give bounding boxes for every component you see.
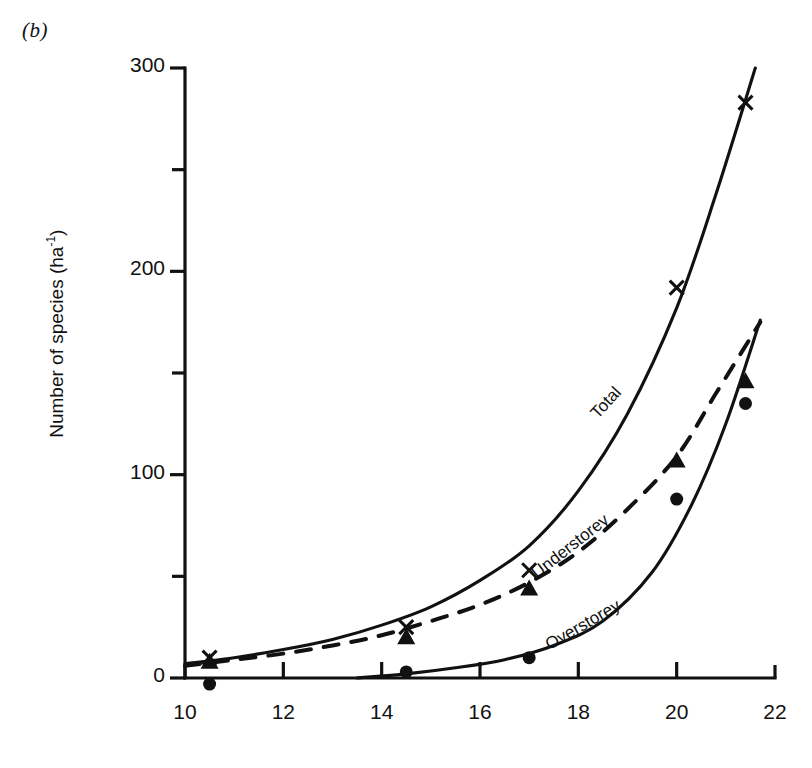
x-axis-tick-label: 18 [538,700,618,724]
y-axis-tick-label: 300 [60,53,165,77]
data-point-circle [203,678,216,691]
x-axis-tick-label: 12 [243,700,323,724]
markers-layer [201,96,755,691]
x-axis-tick-label: 20 [637,700,717,724]
data-point-cross [670,281,684,295]
x-axis-tick-label: 10 [145,700,225,724]
data-point-circle [400,665,413,678]
data-point-triangle [397,628,415,644]
data-point-circle [670,493,683,506]
data-point-circle [523,651,536,664]
x-axis-tick-label: 16 [440,700,520,724]
x-axis-tick-label: 22 [735,700,812,724]
curves-layer [185,68,760,678]
figure-panel: (b) Number of species (ha-1) 01002003001… [0,0,812,768]
y-axis-tick-label: 200 [60,256,165,280]
y-axis-tick-label: 0 [60,663,165,687]
y-axis-tick-label: 100 [60,460,165,484]
data-point-triangle [668,451,686,467]
x-axis-tick-label: 14 [342,700,422,724]
data-point-circle [739,397,752,410]
curve-total [185,68,755,664]
chart-plot-area [0,0,812,768]
